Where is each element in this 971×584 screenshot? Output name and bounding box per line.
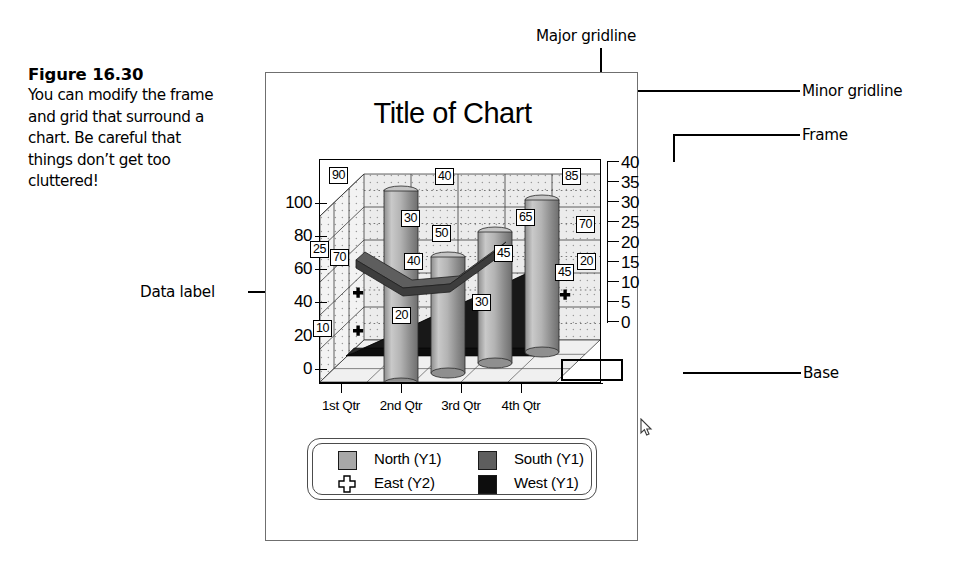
data-label-north-3rd: 65 xyxy=(516,209,535,226)
y-left-tick-3: 60 xyxy=(278,259,312,279)
legend-label-west: West (Y1) xyxy=(514,474,579,491)
y-left-axis-spine xyxy=(319,203,320,371)
y-left-tickmark xyxy=(315,236,327,237)
x-category-0: 1st Qtr xyxy=(311,398,371,413)
y-right-tickmark xyxy=(608,321,619,322)
data-label-south-2nd-m: 30 xyxy=(401,210,420,227)
annotation-frame-leader-h xyxy=(673,134,800,136)
legend-swatch-west xyxy=(478,475,497,494)
data-label-north-1st: 90 xyxy=(329,167,348,184)
legend-swatch-south xyxy=(478,451,497,470)
y-left-tick-2: 40 xyxy=(278,292,312,312)
y-right-tickmark xyxy=(608,241,619,242)
x-category-3: 4th Qtr xyxy=(491,398,551,413)
annotation-base: Base xyxy=(803,364,839,382)
mouse-pointer-icon xyxy=(640,418,653,437)
x-category-1: 2nd Qtr xyxy=(371,398,431,413)
annotation-minor-gridline: Minor gridline xyxy=(802,82,902,100)
y-left-tickmark xyxy=(315,269,327,270)
data-label-south-3rd: 45 xyxy=(494,245,513,262)
y-right-tick-2: 10 xyxy=(621,273,653,293)
y-right-tick-5: 25 xyxy=(621,213,653,233)
y-left-tick-1: 20 xyxy=(278,326,312,346)
y-right-tickmark xyxy=(608,221,619,222)
y-right-tick-3: 15 xyxy=(621,253,653,273)
data-label-north-4th: 85 xyxy=(562,168,581,185)
y-left-tick-4: 80 xyxy=(278,226,312,246)
data-label-south-4th: 70 xyxy=(576,216,595,233)
chart-title: Title of Chart xyxy=(266,97,639,130)
chart-legend[interactable]: North (Y1) South (Y1) East (Y2) West (Y1… xyxy=(307,438,597,500)
data-label-east-4th: 20 xyxy=(577,253,596,270)
data-label-east-2nd: 40 xyxy=(435,168,454,185)
annotation-base-leader xyxy=(683,372,801,374)
chart-base-outline xyxy=(561,359,623,381)
y-right-tick-7: 35 xyxy=(621,173,653,193)
x-category-2: 3rd Qtr xyxy=(431,398,491,413)
data-label-west-2nd: 20 xyxy=(392,307,411,324)
bar-north-2nd xyxy=(431,252,465,378)
data-label-west-4th: 45 xyxy=(555,264,574,281)
legend-label-east: East (Y2) xyxy=(374,474,435,491)
y-right-tickmark xyxy=(608,301,619,302)
annotation-frame-leader-v xyxy=(673,134,675,162)
legend-swatch-north xyxy=(338,451,357,470)
data-label-south-1st: 70 xyxy=(330,249,349,266)
y-left-tickmark xyxy=(315,369,327,370)
x-tickmark xyxy=(461,383,462,393)
data-label-north-2nd: 50 xyxy=(432,225,451,242)
figure-number: Figure 16.30 xyxy=(28,64,228,85)
x-tickmark xyxy=(521,383,522,393)
annotation-major-gridline: Major gridline xyxy=(536,27,636,45)
y-left-tick-5: 100 xyxy=(278,193,312,213)
figure-caption-text: You can modify the frame and grid that s… xyxy=(28,85,228,193)
y-right-tickmark xyxy=(608,201,619,202)
data-label-east-1st: 25 xyxy=(310,241,329,258)
annotation-minor-gridline-leader-h xyxy=(620,90,800,92)
data-label-south-2nd: 40 xyxy=(404,253,423,270)
chart-figure-frame: Title of Chart xyxy=(265,72,638,541)
y-left-tickmark xyxy=(315,302,327,303)
annotation-data-label: Data label xyxy=(140,283,215,301)
y-right-tick-1: 5 xyxy=(621,293,653,313)
legend-cross-icon-east xyxy=(338,475,356,493)
figure-caption: Figure 16.30 You can modify the frame an… xyxy=(28,64,228,193)
y-right-tick-8: 40 xyxy=(621,153,653,173)
legend-label-south: South (Y1) xyxy=(514,450,584,467)
y-right-tick-6: 30 xyxy=(621,193,653,213)
y-right-tick-4: 20 xyxy=(621,233,653,253)
data-label-west-1st: 10 xyxy=(313,320,332,337)
y-right-tickmark xyxy=(608,281,619,282)
y-left-tickmark xyxy=(315,203,327,204)
legend-label-north: North (Y1) xyxy=(374,450,441,467)
annotation-frame: Frame xyxy=(802,126,848,144)
y-right-tick-0: 0 xyxy=(621,313,653,333)
y-right-tickmark xyxy=(608,161,619,162)
y-right-tickmark xyxy=(608,181,619,182)
x-tickmark xyxy=(341,383,342,393)
y-right-tickmark xyxy=(608,261,619,262)
y-right-axis-spine xyxy=(607,161,608,323)
data-label-west-3rd: 30 xyxy=(472,294,491,311)
x-tickmark xyxy=(401,383,402,393)
y-left-tick-0: 0 xyxy=(278,359,312,379)
